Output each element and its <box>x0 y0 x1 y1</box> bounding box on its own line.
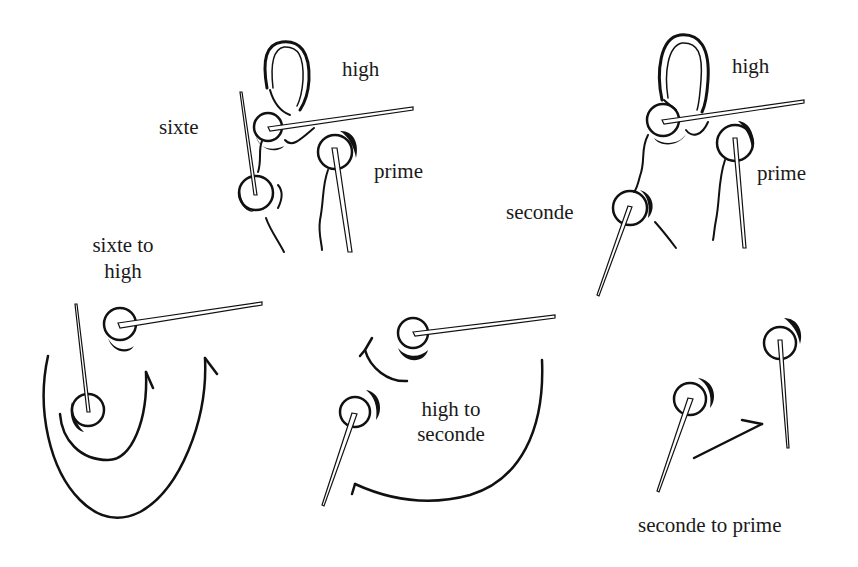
label-prime-top-left: prime <box>374 159 423 183</box>
label-seconde: seconde <box>506 200 574 224</box>
caption-sixte-to-high-line2: high <box>68 259 178 283</box>
caption-high-to-seconde-line1: high to <box>396 397 506 421</box>
seconde-to-prime-sequence <box>657 318 801 492</box>
top-left-fencer <box>239 42 413 252</box>
label-high-top-right: high <box>732 54 769 78</box>
label-prime-top-right: prime <box>757 161 806 185</box>
caption-seconde-to-prime: seconde to prime <box>638 513 781 537</box>
label-high-top-left: high <box>342 57 379 81</box>
fencing-parry-diagram: high sixte prime high seconde prime sixt… <box>0 0 858 567</box>
sixte-to-high-sequence <box>44 302 262 518</box>
label-sixte: sixte <box>159 115 199 139</box>
caption-sixte-to-high-line1: sixte to <box>68 233 178 257</box>
illustration-canvas <box>0 0 858 567</box>
caption-high-to-seconde-line2: seconde <box>396 422 506 446</box>
